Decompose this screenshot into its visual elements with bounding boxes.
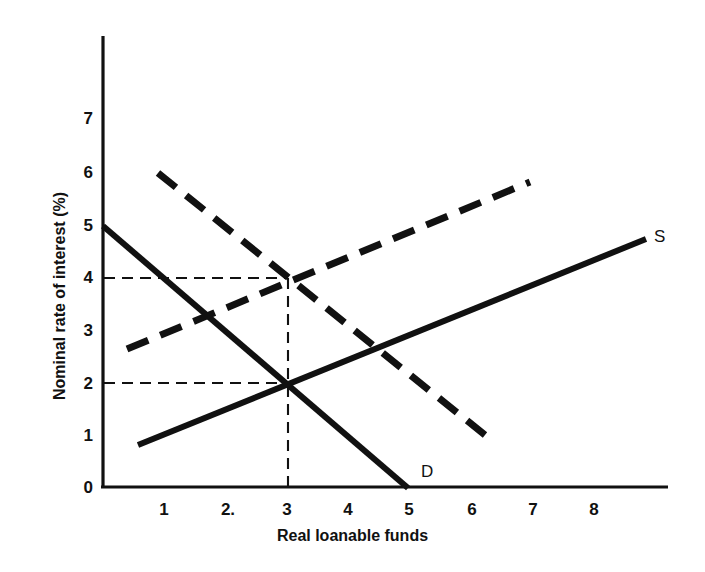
x-tick-label-7: 7 (520, 501, 546, 518)
chart-canvas (0, 0, 705, 572)
loanable-funds-chart: 7 6 5 4 3 2 1 0 1 2. 3 4 5 6 7 8 S D Rea… (0, 0, 705, 572)
x-axis-title: Real loanable funds (0, 528, 705, 544)
y-tick-label-7: 7 (71, 110, 93, 127)
x-tick-label-6: 6 (459, 501, 485, 518)
x-tick-label-8: 8 (581, 501, 607, 518)
y-tick-label-6: 6 (71, 164, 93, 181)
curve-supply-dashed (127, 182, 530, 349)
chart-curves (103, 173, 646, 488)
x-tick-label-5: 5 (396, 501, 422, 518)
supply-curve-label: S (654, 228, 665, 245)
y-axis-title: Nominal rate of interest (%) (52, 192, 68, 400)
y-tick-label-4: 4 (71, 269, 93, 286)
y-tick-label-5: 5 (71, 217, 93, 234)
y-tick-label-1: 1 (71, 427, 93, 444)
demand-curve-label: D (421, 463, 433, 480)
y-tick-label-2: 2 (71, 375, 93, 392)
x-tick-label-1: 1 (151, 501, 177, 518)
curve-demand-dashed (158, 173, 495, 443)
y-tick-label-0: 0 (71, 479, 93, 496)
x-tick-label-2: 2. (215, 501, 241, 518)
y-tick-label-3: 3 (71, 322, 93, 339)
x-tick-label-4: 4 (335, 501, 361, 518)
curve-supply-solid (138, 239, 646, 445)
x-tick-label-3: 3 (274, 501, 300, 518)
